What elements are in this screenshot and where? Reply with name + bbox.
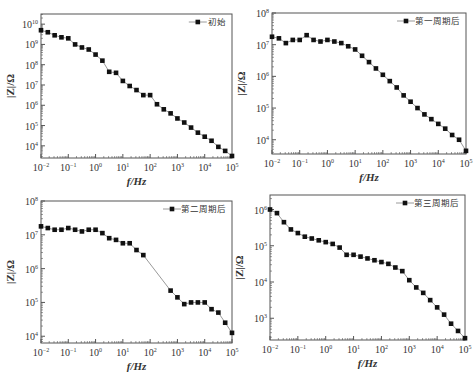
- data-marker: [127, 241, 132, 246]
- data-marker: [107, 236, 112, 241]
- x-tick-label: 102: [144, 162, 157, 173]
- data-marker: [168, 111, 173, 116]
- x-tick-label: 105: [226, 162, 239, 173]
- data-marker: [141, 93, 146, 98]
- plot-frame: [270, 195, 465, 340]
- data-marker: [450, 133, 455, 138]
- x-tick-label: 100: [89, 347, 102, 358]
- x-tick-label: 104: [431, 344, 444, 355]
- x-tick-label: 100: [89, 162, 102, 173]
- data-marker: [46, 226, 51, 231]
- data-marker: [339, 41, 344, 46]
- data-marker: [216, 310, 221, 315]
- data-marker: [449, 321, 454, 326]
- data-marker: [202, 134, 207, 139]
- data-marker: [223, 320, 228, 325]
- data-marker: [93, 52, 98, 57]
- legend-label: 第三周期后: [414, 198, 459, 208]
- data-marker: [141, 253, 146, 258]
- data-marker: [379, 260, 384, 265]
- x-tick-label: 105: [226, 347, 239, 358]
- data-marker: [66, 36, 71, 41]
- data-marker: [401, 93, 406, 98]
- x-tick-label: 101: [116, 347, 129, 358]
- x-tick-label: 10−2: [264, 158, 280, 169]
- data-marker: [39, 28, 44, 33]
- data-marker: [216, 145, 221, 150]
- x-tick-label: 100: [319, 344, 332, 355]
- data-marker: [325, 38, 330, 43]
- data-marker: [46, 30, 51, 35]
- data-marker: [80, 229, 85, 234]
- y-tick-label: 105: [25, 121, 38, 132]
- bode-plot-grid: 10−210−110010110210310410510410510610710…: [0, 0, 476, 381]
- data-marker: [365, 256, 370, 261]
- data-marker: [73, 227, 78, 232]
- y-axis-label: |Z|/Ω: [233, 255, 245, 279]
- x-tick-label: 101: [116, 162, 129, 173]
- data-marker: [360, 53, 365, 58]
- data-marker: [175, 116, 180, 121]
- data-marker: [209, 138, 214, 143]
- data-marker: [311, 38, 316, 43]
- y-tick-label: 108: [256, 8, 269, 19]
- y-tick-label: 108: [25, 60, 38, 71]
- x-axis-label: f/Hz: [127, 175, 147, 187]
- data-marker: [344, 253, 349, 258]
- data-marker: [270, 34, 275, 39]
- x-tick-label: 105: [459, 344, 472, 355]
- data-marker: [59, 227, 64, 232]
- y-tick-label: 107: [25, 80, 38, 91]
- legend: 第一周期后: [397, 16, 460, 26]
- legend-marker-icon: [404, 19, 409, 24]
- y-tick-label: 105: [256, 103, 269, 114]
- data-marker: [304, 33, 309, 38]
- x-tick-label: 10−2: [33, 162, 49, 173]
- data-marker: [318, 39, 323, 44]
- data-marker: [323, 240, 328, 245]
- data-marker: [457, 137, 462, 142]
- x-tick-label: 104: [198, 162, 211, 173]
- data-marker: [421, 291, 426, 296]
- series-line: [41, 226, 232, 333]
- y-tick-label: 104: [256, 135, 269, 146]
- data-marker: [429, 117, 434, 122]
- data-marker: [393, 265, 398, 270]
- data-marker: [353, 47, 358, 52]
- x-tick-label: 103: [171, 347, 184, 358]
- data-marker: [394, 85, 399, 90]
- data-marker: [189, 300, 194, 305]
- data-marker: [100, 231, 105, 236]
- data-marker: [289, 227, 294, 232]
- x-tick-label: 100: [321, 158, 334, 169]
- data-marker: [209, 307, 214, 312]
- data-marker: [114, 71, 119, 76]
- data-marker: [284, 41, 289, 46]
- data-marker: [134, 248, 139, 253]
- data-marker: [464, 149, 469, 154]
- data-marker: [400, 269, 405, 274]
- data-marker: [415, 106, 420, 111]
- data-marker: [381, 72, 386, 77]
- chart-panel-2: 10−210−110010110210310410510410510610710…: [235, 8, 473, 183]
- data-marker: [59, 35, 64, 40]
- x-tick-label: 104: [198, 347, 211, 358]
- y-tick-label: 106: [254, 205, 267, 216]
- y-axis-label: |Z|/Ω: [235, 71, 247, 95]
- data-marker: [275, 211, 280, 216]
- y-tick-label: 104: [25, 141, 38, 152]
- data-marker: [202, 300, 207, 305]
- x-tick-label: 101: [347, 344, 360, 355]
- data-marker: [196, 130, 201, 135]
- series-line: [270, 210, 465, 339]
- series-line: [272, 35, 466, 151]
- x-axis-label: f/Hz: [127, 360, 147, 372]
- data-marker: [182, 120, 187, 125]
- data-marker: [443, 126, 448, 131]
- data-marker: [127, 84, 132, 89]
- data-marker: [86, 47, 91, 52]
- x-tick-label: 103: [404, 158, 417, 169]
- legend-label: 第二周期后: [181, 204, 226, 214]
- data-marker: [463, 336, 468, 341]
- data-marker: [93, 227, 98, 232]
